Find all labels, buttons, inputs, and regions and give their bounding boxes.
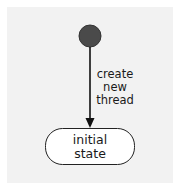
state-label-line: initial — [45, 133, 135, 147]
state-label-line: state — [45, 147, 135, 161]
arrowhead-icon — [86, 118, 95, 128]
initial-pseudostate-node — [79, 25, 101, 47]
state-label: initial state — [45, 133, 135, 161]
transition-label: create new thread — [93, 68, 137, 107]
transition-label-line: thread — [93, 94, 137, 107]
